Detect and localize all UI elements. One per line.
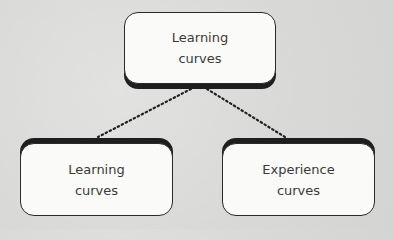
- root-node-line1: Learning: [172, 27, 228, 48]
- child-node-line1: Experience: [262, 159, 335, 180]
- child-node-experience-curves: Experience curves: [222, 143, 375, 216]
- connector-root-to-learning: [98, 89, 191, 137]
- child-node-line2: curves: [68, 180, 124, 201]
- root-node-line2: curves: [172, 48, 228, 69]
- child-node-line1: Learning: [68, 159, 124, 180]
- child-node-line2: curves: [262, 180, 335, 201]
- root-node-learning-curves: Learning curves: [124, 12, 276, 84]
- child-node-learning-curves: Learning curves: [20, 143, 173, 216]
- connector-root-to-experience: [207, 89, 285, 137]
